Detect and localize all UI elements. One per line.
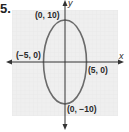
point-label-left: (−5, 0)	[16, 51, 41, 60]
y-axis-top-arrow-icon	[63, 0, 68, 6]
y-axis-label: y	[68, 0, 73, 8]
graph-canvas	[0, 0, 129, 132]
point-label-bottom: (0, −10)	[67, 105, 97, 114]
x-axis-left-arrow-icon	[6, 60, 12, 65]
x-axis-label: x	[119, 52, 124, 61]
y-axis-bottom-arrow-icon	[63, 124, 68, 130]
point-label-right: (5, 0)	[88, 66, 108, 75]
ellipse-figure: 5. y x (0, 10) (−5, 0) (5, 0) (0, −10)	[0, 0, 129, 132]
point-label-top: (0, 10)	[35, 11, 60, 20]
